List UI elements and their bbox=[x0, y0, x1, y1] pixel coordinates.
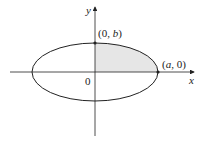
ellipse-diagram: y x 0 (0, b) (a, 0) bbox=[0, 0, 205, 142]
top-vertex-label: (0, b) bbox=[98, 27, 122, 40]
x-axis-label: x bbox=[188, 74, 194, 86]
shaded-quadrant-region bbox=[95, 43, 158, 72]
origin-label: 0 bbox=[85, 75, 91, 87]
y-axis-label: y bbox=[85, 4, 91, 16]
point-top-vertex bbox=[93, 41, 96, 44]
right-vertex-label: (a, 0) bbox=[162, 58, 186, 71]
point-right-vertex bbox=[156, 70, 159, 73]
